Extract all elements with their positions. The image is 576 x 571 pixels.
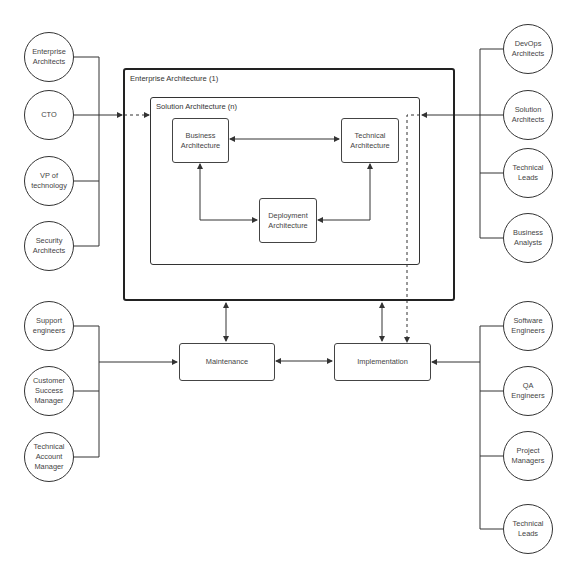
architecture-diagram: Enterprise Architecture (1) Solution Arc…	[0, 0, 576, 571]
role-label: VP of technology	[31, 171, 67, 191]
technical-architecture-box[interactable]: Technical Architecture	[341, 118, 399, 163]
role-label: Enterprise Architects	[32, 47, 66, 67]
role-solution-architects[interactable]: Solution Architects	[503, 90, 553, 140]
implementation-label: Implementation	[357, 357, 408, 367]
role-enterprise-architects[interactable]: Enterprise Architects	[24, 32, 74, 82]
role-label: Security Architects	[33, 236, 65, 256]
role-label: DevOps Architects	[512, 39, 544, 59]
role-business-analysts[interactable]: Business Analysts	[503, 213, 553, 263]
business-architecture-box[interactable]: Business Architecture	[172, 118, 229, 163]
role-support-engineers[interactable]: Support engineers	[24, 301, 74, 351]
role-technical-account-manager[interactable]: Technical Account Manager	[24, 432, 74, 482]
role-label: Customer Success Manager	[33, 376, 65, 406]
maintenance-box[interactable]: Maintenance	[179, 343, 275, 381]
solution-architecture-label: Solution Architecture (n)	[156, 102, 237, 111]
role-technical-leads-impl[interactable]: Technical Leads	[503, 504, 553, 554]
deployment-architecture-label: Deployment Architecture	[268, 211, 307, 231]
role-label: Business Analysts	[513, 228, 543, 248]
role-qa-engineers[interactable]: QA Engineers	[503, 366, 553, 416]
business-architecture-label: Business Architecture	[181, 131, 220, 151]
enterprise-architecture-label: Enterprise Architecture (1)	[130, 74, 218, 83]
technical-architecture-label: Technical Architecture	[350, 131, 389, 151]
role-security-architects[interactable]: Security Architects	[24, 221, 74, 271]
role-label: Technical Leads	[513, 519, 544, 539]
role-vp-of-technology[interactable]: VP of technology	[24, 156, 74, 206]
role-project-managers[interactable]: Project Managers	[503, 431, 553, 481]
role-label: Solution Architects	[512, 105, 544, 125]
role-devops-architects[interactable]: DevOps Architects	[503, 24, 553, 74]
role-label: Technical Leads	[513, 163, 544, 183]
maintenance-label: Maintenance	[206, 357, 248, 367]
implementation-box[interactable]: Implementation	[334, 343, 431, 381]
role-label: Software Engineers	[511, 316, 544, 336]
role-technical-leads[interactable]: Technical Leads	[503, 148, 553, 198]
deployment-architecture-box[interactable]: Deployment Architecture	[259, 198, 317, 243]
role-label: QA Engineers	[511, 381, 544, 401]
role-customer-success-manager[interactable]: Customer Success Manager	[24, 366, 74, 416]
role-software-engineers[interactable]: Software Engineers	[503, 301, 553, 351]
role-label: CTO	[41, 110, 56, 120]
role-label: Support engineers	[33, 316, 65, 336]
role-cto[interactable]: CTO	[24, 90, 74, 140]
role-label: Project Managers	[512, 446, 545, 466]
role-label: Technical Account Manager	[34, 442, 65, 472]
